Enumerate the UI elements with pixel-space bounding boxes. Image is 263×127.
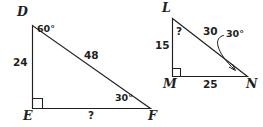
vertex-label-e: E [23,110,33,123]
side-label-ef-unknown: ? [88,110,94,121]
vertex-label-d: D [17,6,28,19]
angle-label-l-unknown: ? [176,26,182,37]
vertex-label-n: N [246,78,257,91]
side-label-lm: 15 [155,40,170,51]
geometry-figure: D E F 60° 24 48 ? 30° L M N ? 15 30 25 3… [0,0,263,127]
angle-label-d: 60° [37,24,55,34]
side-label-mn: 25 [203,79,218,90]
geometry-canvas [0,0,263,127]
vertex-label-f: F [148,110,157,123]
side-label-ln: 30 [203,26,218,37]
right-angle-mark-e [33,99,43,109]
vertex-label-l: L [162,2,171,15]
side-label-df: 48 [84,50,99,61]
angle-label-n: 30° [226,29,244,39]
angle-label-f: 30° [115,93,133,103]
vertex-label-m: M [163,78,177,91]
side-label-de: 24 [13,57,28,68]
